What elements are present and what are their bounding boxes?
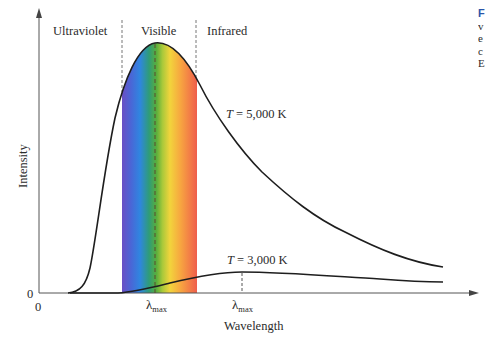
y-origin-label: 0 [27, 287, 33, 301]
blackbody-radiation-chart: Ultraviolet Visible Infrared T = 5,000 K… [0, 0, 494, 347]
caption-line: v [478, 20, 494, 33]
label-infrared: Infrared [207, 24, 248, 38]
label-t3000: T = 3,000 K [227, 253, 288, 267]
caption-line: c [478, 45, 494, 58]
lambda-max-5000-label: λmax [146, 297, 168, 314]
x-axis-arrow-icon [469, 290, 479, 296]
label-visible: Visible [141, 24, 177, 38]
lambda-max-3000-label: λmax [232, 297, 254, 314]
caption-line: F [478, 7, 494, 20]
x-axis-label: Wavelength [224, 319, 284, 333]
label-t5000: T = 5,000 K [226, 107, 287, 121]
x-origin-label: 0 [35, 300, 41, 314]
y-axis-label: Intensity [16, 144, 30, 188]
y-axis-arrow-icon [36, 8, 42, 18]
label-ultraviolet: Ultraviolet [53, 24, 108, 38]
caption-line: e [478, 32, 494, 45]
caption-line: E [478, 57, 494, 70]
clipped-caption: F v e c E [478, 7, 494, 70]
visible-spectrum-band [122, 30, 197, 293]
